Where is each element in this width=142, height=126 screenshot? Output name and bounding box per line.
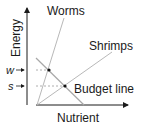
w-marker-label: w	[6, 64, 15, 76]
shrimps-line	[37, 52, 112, 105]
diet-budget-diagram: w s Energy Nutrient Worms Shrimps Budget…	[0, 0, 142, 126]
shrimps-label: Shrimps	[89, 39, 133, 53]
worms-line	[37, 18, 64, 105]
worms-label: Worms	[47, 4, 85, 18]
budget-line-label: Budget line	[74, 82, 134, 96]
y-axis-label: Energy	[9, 19, 23, 57]
s-marker-label: s	[8, 80, 14, 92]
x-axis-label: Nutrient	[57, 111, 100, 125]
shrimps-budget-point	[63, 84, 66, 87]
worms-budget-point	[47, 68, 50, 71]
